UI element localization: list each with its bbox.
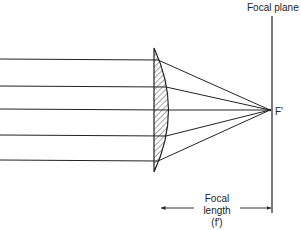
refracted-ray-5 [158,110,270,161]
refracted-ray-1 [158,60,270,110]
lens [154,48,169,172]
ray-2 [0,86,166,87]
focal-length-label-line1: Focal [205,193,229,204]
lens-focal-length-diagram: Focal plane F' Focal length (f') [0,0,301,230]
focal-length-label-line2: length [203,205,230,216]
incoming-rays [0,59,168,161]
ray-3 [0,109,168,110]
ray-4 [0,135,166,136]
focal-point-marker [269,109,271,111]
focal-length-label-line3: (f') [211,217,222,228]
ray-5 [0,160,158,161]
refracted-ray-4 [166,110,270,136]
refracted-ray-2 [166,87,270,110]
converging-rays [158,60,270,161]
focal-point-label: F' [275,106,283,117]
focal-plane-label: Focal plane [247,2,299,13]
ray-1 [0,59,158,60]
